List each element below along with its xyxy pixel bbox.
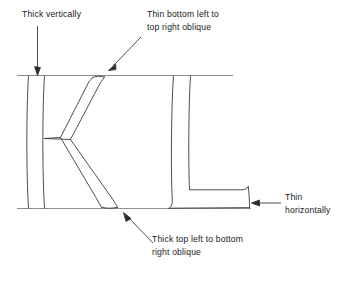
glyph-l-outline — [169, 76, 250, 208]
up-left-arrow-head — [124, 213, 132, 222]
annotation-line: Thin — [285, 191, 331, 204]
k-arm-top-terminal — [93, 76, 105, 77]
annotation-line: horizontally — [285, 204, 331, 217]
letterform-annotation-figure: Thick vertically Thin bottom left to top… — [0, 0, 338, 284]
annotation-line: right oblique — [152, 246, 243, 259]
annotation-label-thick-vertically: Thick vertically — [22, 8, 81, 21]
l-foot-top-edge — [190, 187, 249, 190]
annotation-line: Thin bottom left to — [147, 8, 219, 21]
l-foot-bottom-edge — [169, 208, 250, 209]
annotation-line: Thick top left to bottom — [152, 233, 243, 246]
k-stem-right-edge — [43, 76, 45, 208]
down-left-arrow-shaft — [113, 37, 141, 66]
annotation-line: top right oblique — [147, 21, 219, 34]
k-leg-bottom-terminal — [102, 207, 118, 208]
up-left-arrow-shaft — [128, 217, 153, 243]
down-arrow-head — [35, 67, 41, 76]
annotation-line: Thick vertically — [22, 8, 81, 21]
l-foot-serif-spur — [248, 187, 249, 208]
l-stem-left-edge — [169, 76, 174, 208]
l-stem-right-edge — [189, 76, 191, 190]
annotation-label-thin-horizontally: Thin horizontally — [285, 191, 331, 217]
k-stem-left-edge — [27, 76, 29, 208]
down-left-arrow-head — [109, 64, 117, 71]
k-leg-lower-edge — [71, 140, 118, 208]
annotation-label-thin-oblique-up: Thin bottom left to top right oblique — [147, 8, 219, 34]
annotation-label-thick-oblique-down: Thick top left to bottom right oblique — [152, 233, 243, 259]
guide-lines — [17, 76, 251, 209]
left-arrow-head — [252, 200, 260, 206]
k-junction-notch — [44, 138, 71, 140]
k-leg-upper-edge — [61, 138, 102, 208]
glyph-k-outline — [27, 76, 118, 208]
annotation-arrows — [35, 26, 281, 243]
